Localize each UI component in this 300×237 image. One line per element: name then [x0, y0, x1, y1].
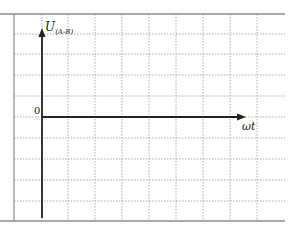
origin-label: 0: [34, 105, 40, 116]
y-axis-label: U(A-B): [45, 20, 73, 36]
x-axis-label: ωt: [242, 120, 255, 133]
y-axis-label-main: U: [45, 20, 55, 34]
y-axis-label-subscript: (A-B): [55, 28, 73, 36]
